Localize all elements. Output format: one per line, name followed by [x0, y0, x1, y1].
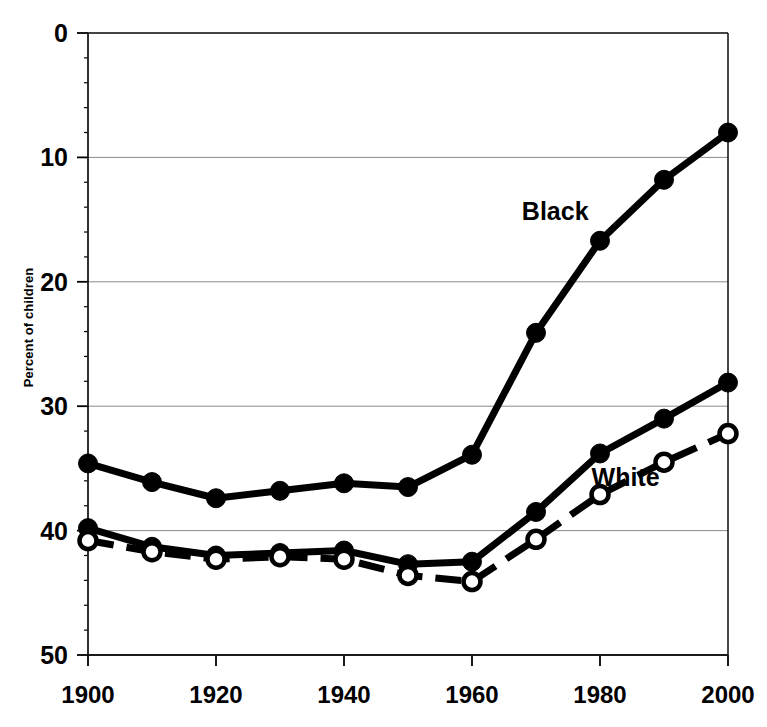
data-point-marker [655, 170, 674, 189]
data-point-marker [527, 502, 546, 521]
data-point-marker [719, 373, 738, 392]
y-tick-label: 20 [40, 268, 68, 296]
data-point-marker [655, 409, 674, 428]
data-point-marker [207, 489, 226, 508]
data-point-marker [591, 231, 610, 250]
data-point-marker [527, 323, 546, 342]
series-annotation-black: Black [522, 197, 589, 225]
data-point-marker [143, 473, 162, 492]
y-axis-ticks: 50403020100 [40, 19, 88, 669]
chart-figure: Percent of children 50403020100 19001920… [0, 0, 767, 727]
data-point-marker [463, 552, 482, 571]
data-series-lines [88, 133, 728, 582]
data-point-marker [271, 481, 290, 500]
data-point-marker-open [400, 567, 417, 584]
y-tick-label: 0 [54, 19, 68, 47]
data-point-marker [335, 474, 354, 493]
y-tick-label: 30 [40, 392, 68, 420]
data-point-marker-open [144, 543, 161, 560]
x-tick-label: 1980 [573, 681, 626, 708]
x-tick-label: 1960 [445, 681, 498, 708]
data-series-markers [79, 123, 738, 590]
data-point-marker [591, 444, 610, 463]
data-point-marker [719, 123, 738, 142]
data-point-marker-open [272, 548, 289, 565]
data-point-marker-open [336, 551, 353, 568]
x-axis-ticks: 190019201940196019802000 [61, 655, 754, 708]
x-tick-label: 1920 [189, 681, 242, 708]
data-point-marker-open [464, 573, 481, 590]
series-line-black [88, 133, 728, 499]
y-tick-label: 40 [40, 517, 68, 545]
x-tick-label: 1940 [317, 681, 370, 708]
x-tick-label: 1900 [61, 681, 114, 708]
series-annotation-white: White [592, 463, 660, 491]
y-tick-label: 10 [40, 143, 68, 171]
data-point-marker [463, 445, 482, 464]
y-tick-label: 50 [40, 641, 68, 669]
data-point-marker-open [528, 531, 545, 548]
x-tick-label: 2000 [701, 681, 754, 708]
data-point-marker [79, 454, 98, 473]
data-point-marker [399, 478, 418, 497]
chart-canvas: 50403020100 190019201940196019802000 Bla… [0, 0, 767, 727]
data-point-marker-open [208, 551, 225, 568]
data-point-marker-open [720, 425, 737, 442]
gridlines [88, 33, 728, 531]
data-point-marker-open [80, 532, 97, 549]
